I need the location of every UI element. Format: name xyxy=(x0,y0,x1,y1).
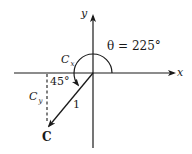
cy-main: C xyxy=(29,90,37,103)
cx-subscript: x xyxy=(70,60,74,68)
vector-diagram: y x θ = 225° 45° Cx Cy 1 C xyxy=(0,0,192,154)
magnitude-label: 1 xyxy=(73,99,80,110)
x-axis-label: x xyxy=(177,67,183,78)
cx-main: C xyxy=(61,53,69,66)
cy-label: Cy xyxy=(29,91,41,102)
cx-label: Cx xyxy=(61,54,73,65)
diagram-canvas xyxy=(0,0,192,154)
theta-label: θ = 225° xyxy=(107,40,161,52)
y-axis-label: y xyxy=(81,8,87,19)
vector-name-label: C xyxy=(42,131,52,143)
cy-subscript: y xyxy=(38,97,42,105)
reference-angle-label: 45° xyxy=(50,76,70,87)
